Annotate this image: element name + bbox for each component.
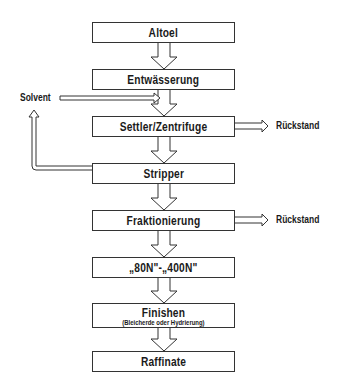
arrow-grades-finishen bbox=[151, 277, 177, 303]
node-stripper: Stripper bbox=[92, 163, 235, 184]
node-label: Stripper bbox=[143, 167, 183, 181]
node-label: Altoel bbox=[149, 26, 178, 40]
node-altoel: Altoel bbox=[92, 22, 235, 43]
node-label: Entwässerung bbox=[128, 73, 200, 87]
arrow-fraktionierung-grades bbox=[151, 230, 177, 257]
arrow-altoel-entwaesserung bbox=[151, 42, 177, 69]
node-label: Raffinate bbox=[141, 355, 186, 369]
node-grades-80n-400n: „80N"-„400N" bbox=[92, 257, 235, 278]
arrow-finishen-raffinate bbox=[151, 327, 177, 351]
flow-arrows bbox=[0, 0, 338, 389]
arrow-stripper-fraktionierung bbox=[151, 183, 177, 210]
arrow-stripper-recycle bbox=[29, 110, 92, 170]
node-entwaesserung: Entwässerung bbox=[92, 69, 235, 90]
node-finishen: Finishen (Bleicherde oder Hydrierung) bbox=[92, 303, 235, 328]
node-label: Settler/Zentrifuge bbox=[120, 120, 208, 134]
arrow-settler-stripper bbox=[151, 136, 177, 163]
node-fraktionierung: Fraktionierung bbox=[92, 210, 235, 231]
label-solvent: Solvent bbox=[20, 92, 51, 103]
node-label: „80N"-„400N" bbox=[129, 261, 197, 275]
node-sublabel: (Bleicherde oder Hydrierung) bbox=[122, 319, 204, 326]
arrow-solvent-in bbox=[60, 93, 160, 103]
arrow-settler-rueckstand bbox=[235, 120, 268, 132]
node-raffinate: Raffinate bbox=[92, 351, 235, 372]
label-rueckstand-settler: Rückstand bbox=[276, 120, 319, 131]
arrow-fraktionierung-rueckstand bbox=[235, 214, 268, 226]
node-label: Finishen bbox=[142, 306, 185, 320]
label-rueckstand-fraktionierung: Rückstand bbox=[276, 214, 319, 225]
node-label: Fraktionierung bbox=[127, 214, 201, 228]
node-settler-zentrifuge: Settler/Zentrifuge bbox=[92, 116, 235, 137]
